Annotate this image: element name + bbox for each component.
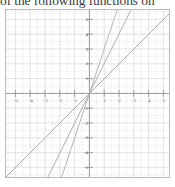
graph-plot-area: -5 -4 -3 -2 -1 1 2 3 4 5 5 4 3 2 1 -1 -2… bbox=[6, 10, 169, 177]
y-tick-label-2: 2 bbox=[78, 61, 88, 66]
y-tick-label-neg3: -3 bbox=[78, 135, 88, 140]
y-tick-label-1: 1 bbox=[78, 76, 88, 81]
y-tick-label-neg2: -2 bbox=[78, 121, 88, 126]
x-tick-label-neg3: -3 bbox=[40, 98, 52, 103]
x-tick-label-neg1: -1 bbox=[69, 98, 81, 103]
x-tick-label-1: 1 bbox=[99, 98, 111, 103]
x-tick-label-4: 4 bbox=[143, 98, 155, 103]
x-tick-label-neg5: -5 bbox=[10, 98, 22, 103]
y-tick-label-3: 3 bbox=[78, 47, 88, 52]
y-tick-label-4: 4 bbox=[78, 32, 88, 37]
y-tick-label-neg4: -4 bbox=[78, 150, 88, 155]
x-tick-label-neg2: -2 bbox=[54, 98, 66, 103]
y-tick-label-neg1: -1 bbox=[78, 106, 88, 111]
x-tick-label-3: 3 bbox=[128, 98, 140, 103]
x-tick-label-5: 5 bbox=[158, 98, 170, 103]
y-tick-label-neg5: -5 bbox=[78, 165, 88, 170]
y-tick-label-5: 5 bbox=[78, 17, 88, 22]
x-tick-label-2: 2 bbox=[114, 98, 126, 103]
x-tick-label-neg4: -4 bbox=[25, 98, 37, 103]
graph-plot-frame: -5 -4 -3 -2 -1 1 2 3 4 5 5 4 3 2 1 -1 -2… bbox=[5, 9, 170, 178]
header-caption-text: of the following functions on bbox=[0, 0, 175, 8]
